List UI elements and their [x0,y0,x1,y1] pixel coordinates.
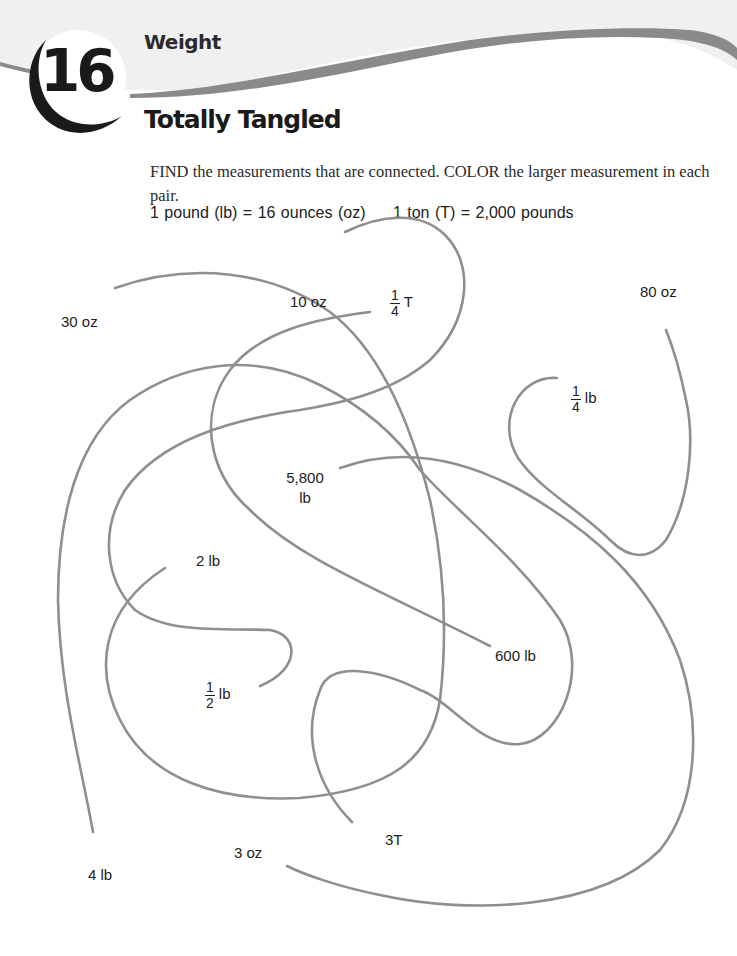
label-30-oz: 30 oz [61,313,98,330]
tangle-line-quarter-lb [509,330,690,555]
label-5800-lb: 5,800 lb [283,468,327,508]
tangled-lines [0,0,737,956]
label-2-lb: 2 lb [196,552,220,569]
label-quarter-lb: 14lb [571,384,596,415]
label-10-oz: 10 oz [290,293,327,310]
label-600-lb: 600 lb [495,647,536,664]
tangle-line-5800lb [287,457,693,906]
label-quarter-ton: 14T [390,288,413,319]
label-80-oz: 80 oz [640,283,677,300]
label-4-lb: 4 lb [88,866,112,883]
label-3-oz: 3 oz [234,844,262,861]
label-half-lb: 12lb [205,680,230,711]
tangle-line-30oz [106,273,444,798]
tangle-line-quarter-t [211,312,490,646]
label-3-ton: 3T [385,831,403,848]
tangle-line-4lb [58,365,572,832]
